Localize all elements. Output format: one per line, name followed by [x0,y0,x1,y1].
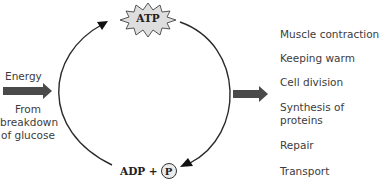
use-item-keeping-warm: Keeping warm [280,52,355,65]
glucose-source-label: From breakdown of glucose [0,103,56,142]
phosphate-label: P [165,166,173,177]
source-line-2: breakdown [0,116,56,129]
source-line-1: From [0,103,56,116]
source-line-3: of glucose [0,129,56,142]
left-cycle-arc [59,21,112,165]
energy-input-arrow-icon [3,83,52,99]
use-item-repair: Repair [280,139,314,152]
phosphate-circle-icon: P [161,163,177,179]
use-item-synthesis-line-1: Synthesis of [280,101,344,114]
right-cycle-arc [180,22,230,167]
use-item-transport: Transport [280,165,329,178]
atp-label: ATP [130,12,166,24]
use-item-synthesis-line-2: proteins [280,114,323,127]
energy-label: Energy [5,70,42,83]
adp-label: ADP + [120,165,158,177]
arrowhead-icon [97,21,108,30]
adp-plus-p-label: ADP + P [120,163,177,179]
use-item-cell-division: Cell division [280,76,343,89]
use-item-muscle-contraction: Muscle contraction [280,28,379,41]
energy-output-arrow-icon [233,86,268,102]
